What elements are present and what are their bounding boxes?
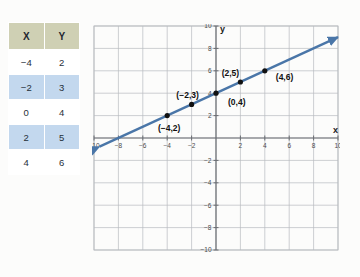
cell-y: 4 [44,100,80,125]
svg-text:−4: −4 [163,142,171,149]
svg-text:−6: −6 [204,202,212,209]
cell-x: −2 [9,75,45,100]
svg-text:−2: −2 [204,157,212,164]
table-row: 0 4 [9,100,80,125]
axes [94,26,338,250]
table-row: 4 6 [9,150,80,175]
cell-x: 2 [9,125,45,150]
svg-text:(−2,3): (−2,3) [176,90,199,100]
column-header-y: Y [44,23,80,50]
coordinate-plane: −10−8−6−4−2246810108642−2−4−6−8−10 (−4,2… [92,24,340,252]
svg-text:−4: −4 [204,179,212,186]
svg-text:(4,6): (4,6) [276,72,294,82]
svg-text:(2,5): (2,5) [222,68,240,78]
cell-x: −4 [9,50,45,75]
svg-text:−10: −10 [200,246,211,252]
svg-text:2: 2 [239,142,243,149]
xy-table: X Y −4 2 −2 3 0 4 2 5 [8,22,77,175]
table-row: −4 2 [9,50,80,75]
svg-text:−8: −8 [204,224,212,231]
cell-x: 0 [9,100,45,125]
table-row: −2 3 [9,75,80,100]
svg-text:10: 10 [204,24,212,29]
svg-text:2: 2 [208,112,212,119]
plotted-line [99,37,338,146]
table-header-row: X Y [9,23,80,50]
cell-x: 4 [9,150,45,175]
cell-y: 3 [44,75,80,100]
column-header-x: X [9,23,45,50]
cell-y: 6 [44,150,80,175]
svg-text:−2: −2 [188,142,196,149]
svg-text:6: 6 [287,142,291,149]
svg-text:(0,4): (0,4) [228,97,246,107]
svg-text:8: 8 [312,142,316,149]
x-axis-label: x [333,125,338,135]
graph-svg: −10−8−6−4−2246810108642−2−4−6−8−10 (−4,2… [92,24,340,252]
svg-text:−6: −6 [139,142,147,149]
svg-text:6: 6 [208,67,212,74]
svg-text:−8: −8 [115,142,123,149]
figure-root: X Y −4 2 −2 3 0 4 2 5 [0,0,360,277]
y-axis-label: y [220,24,225,34]
svg-text:−10: −10 [92,142,100,149]
svg-text:10: 10 [334,142,340,149]
cell-y: 2 [44,50,80,75]
point-labels: (−4,2)(−2,3)(0,4)(2,5)(4,6) [158,68,293,133]
svg-text:4: 4 [263,142,267,149]
cell-y: 5 [44,125,80,150]
svg-text:(−4,2): (−4,2) [158,123,181,133]
table-row: 2 5 [9,125,80,150]
svg-text:8: 8 [208,45,212,52]
